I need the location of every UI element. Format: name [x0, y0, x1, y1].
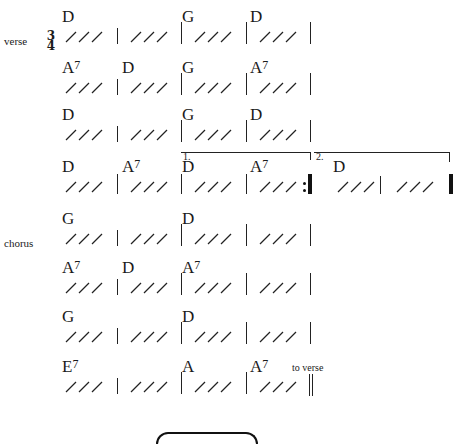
to-verse-note: to verse [292, 362, 323, 373]
barline [117, 328, 118, 344]
time-signature-bottom: 4 [46, 41, 56, 51]
end-barline [449, 174, 453, 194]
barline [117, 126, 118, 142]
beat-slashes-icon [336, 180, 382, 194]
time-signature: 34 [46, 31, 56, 53]
beat-slashes-icon [258, 281, 304, 295]
barline [117, 279, 118, 295]
beat-slashes-icon [193, 30, 239, 44]
ending-bracket-2-drop [449, 152, 450, 162]
chord-symbol: E7 [62, 358, 78, 375]
chord-symbol: D [62, 106, 74, 123]
barline [117, 79, 118, 95]
chord-root: A [62, 258, 74, 277]
chord-root: D [122, 258, 134, 277]
barline [117, 230, 118, 246]
chord-root: A [250, 357, 262, 376]
section-label-chorus: chorus [4, 237, 33, 249]
chord-root: D [62, 157, 74, 176]
beat-slashes-icon [193, 128, 239, 142]
chord-extension: 7 [194, 258, 200, 272]
ending-bracket-1-drop [310, 152, 311, 160]
chord-symbol: D [182, 210, 194, 227]
chord-symbol: D [62, 8, 74, 25]
page-tab-shape [156, 432, 258, 444]
beat-slashes-icon [64, 330, 110, 344]
chord-symbol: G [62, 308, 74, 325]
chord-symbol: D [182, 308, 194, 325]
beat-slashes-icon [193, 180, 239, 194]
beat-slashes-icon [193, 232, 239, 246]
beat-slashes-icon [64, 30, 110, 44]
barline [181, 224, 182, 246]
beat-slashes-icon [395, 180, 441, 194]
chord-root: A [250, 157, 262, 176]
ending-bracket-2 [314, 152, 450, 154]
barline [246, 174, 247, 194]
beat-slashes-icon [129, 281, 175, 295]
beat-slashes-icon [64, 232, 110, 246]
chord-extension: 7 [134, 157, 140, 171]
double-barline-left [309, 374, 310, 396]
barline [181, 73, 182, 95]
barline [246, 120, 247, 142]
barline [310, 273, 311, 295]
beat-slashes-icon [193, 81, 239, 95]
beat-slashes-icon [129, 81, 175, 95]
barline [181, 22, 182, 44]
barline [246, 322, 247, 344]
ending-bracket-1 [181, 152, 310, 154]
chord-extension: 7 [74, 258, 80, 272]
chord-root: A [122, 157, 134, 176]
chord-symbol: G [182, 59, 194, 76]
barline [246, 273, 247, 295]
chord-symbol: D [62, 158, 74, 175]
chord-root: A [62, 58, 74, 77]
barline [310, 224, 311, 246]
beat-slashes-icon [129, 30, 175, 44]
barline [181, 120, 182, 142]
beat-slashes-icon [258, 330, 304, 344]
chord-symbol: D [122, 59, 134, 76]
barline [310, 73, 311, 95]
chord-symbol: D [250, 106, 262, 123]
chord-root: D [122, 58, 134, 77]
barline [117, 28, 118, 44]
beat-slashes-icon [64, 128, 110, 142]
barline [246, 73, 247, 95]
chord-root: E [62, 357, 72, 376]
barline [181, 372, 182, 394]
chord-root: A [182, 258, 194, 277]
chord-symbol: A7 [250, 158, 268, 175]
chord-symbol: A7 [62, 259, 80, 276]
chord-extension: 7 [262, 58, 268, 72]
chord-extension: 7 [262, 157, 268, 171]
barline [246, 22, 247, 44]
chord-root: G [62, 307, 74, 326]
chord-symbol: D [122, 259, 134, 276]
barline [310, 322, 311, 344]
chord-root: D [182, 209, 194, 228]
double-barline-right [312, 374, 313, 396]
barline [380, 176, 381, 194]
repeat-dot [303, 182, 306, 185]
chord-root: D [182, 307, 194, 326]
barline [310, 120, 311, 142]
chord-symbol: D [333, 158, 345, 175]
chord-extension: 7 [262, 357, 268, 371]
chord-root: A [250, 58, 262, 77]
chord-root: G [182, 105, 194, 124]
chord-symbol: A7 [182, 259, 200, 276]
final-repeat-barline [308, 174, 312, 194]
chord-symbol: G [62, 210, 74, 227]
beat-slashes-icon [129, 232, 175, 246]
chord-root: D [250, 105, 262, 124]
beat-slashes-icon [258, 380, 304, 394]
chord-root: G [182, 7, 194, 26]
chord-extension: 7 [74, 58, 80, 72]
beat-slashes-icon [258, 180, 304, 194]
chord-root: G [62, 209, 74, 228]
chord-symbol: D [250, 8, 262, 25]
beat-slashes-icon [129, 128, 175, 142]
beat-slashes-icon [129, 180, 175, 194]
